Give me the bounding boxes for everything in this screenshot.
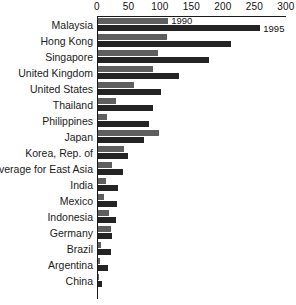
bar-row: Singapore [0,49,296,65]
category-label: Brazil [0,242,93,256]
category-label: Average for East Asia [0,162,93,176]
bar-1995 [98,121,149,127]
bar-rows: Malaysia19901995Hong KongSingaporeUnited… [0,17,296,289]
bar-1995 [98,265,108,271]
category-label: Malaysia [0,18,93,32]
bar-1995 [98,137,144,143]
bar-row: Thailand [0,97,296,113]
bar-1995 [98,233,112,239]
bar-1990 [98,194,104,200]
category-label: China [0,274,93,288]
bar-row: Indonesia [0,209,296,225]
category-label: Hong Kong [0,34,93,48]
bar-row: Average for East Asia [0,161,296,177]
bar-1990 [98,274,99,280]
bar-1990 [98,146,124,152]
bar-1990 [98,34,167,40]
bar-1995 [98,169,123,175]
bar-1990 [98,82,134,88]
bar-row: Malaysia19901995 [0,17,296,33]
bar-row: Germany [0,225,296,241]
bar-1990 [98,162,112,168]
bar-chart: 0 50 100 150 200 250 300 Malaysia1990199… [0,0,296,305]
category-label: United States [0,82,93,96]
bar-row: China [0,273,296,289]
bar-1995 [98,185,118,191]
category-label: Mexico [0,194,93,208]
category-label: India [0,178,93,192]
bar-row: Hong Kong [0,33,296,49]
bar-row: Korea, Rep. of [0,145,296,161]
bar-row: Brazil [0,241,296,257]
plot-area: Malaysia19901995Hong KongSingaporeUnited… [0,17,296,305]
bar-1990 [98,178,106,184]
bar-1990 [98,98,116,104]
bar-1995 [98,249,111,255]
bar-1990 [98,114,107,120]
category-label: Germany [0,226,93,240]
bar-row: United Kingdom [0,65,296,81]
bar-row: Philippines [0,113,296,129]
bar-1990 [98,226,111,232]
x-tick-label-100: 100 [151,1,168,12]
bar-1990 [98,66,153,72]
category-label: Thailand [0,98,93,112]
bar-row: Mexico [0,193,296,209]
bar-row: India [0,177,296,193]
x-tick-label-50: 50 [123,1,135,12]
bar-1995 [98,89,161,95]
bar-1995 [98,57,209,63]
bar-1990 [98,258,100,264]
x-tick-label-200: 200 [214,1,231,12]
category-label: Argentina [0,258,93,272]
category-label: Singapore [0,50,93,64]
bar-1995 [98,201,117,207]
bar-1990 [98,18,168,24]
bar-1995 [98,217,116,223]
bar-row: Argentina [0,257,296,273]
x-tick-label-0: 0 [94,1,100,12]
bar-1995 [98,41,231,47]
category-label: Philippines [0,114,93,128]
category-label: United Kingdom [0,66,93,80]
x-tick-label-300: 300 [277,1,294,12]
bar-1995 [98,153,128,159]
bar-1990 [98,242,101,248]
bar-row: Japan [0,129,296,145]
category-label: Indonesia [0,210,93,224]
bar-1990 [98,210,109,216]
bar-row: United States [0,81,296,97]
bar-1990 [98,50,158,56]
bar-1990 [98,130,159,136]
x-tick-label-150: 150 [183,1,200,12]
series-label-1990: 1990 [171,16,192,26]
category-label: Korea, Rep. of [0,146,93,160]
bar-1995 [98,281,102,287]
bar-1995 [98,105,153,111]
category-label: Japan [0,130,93,144]
x-tick-label-250: 250 [246,1,263,12]
bar-1995 [98,73,179,79]
